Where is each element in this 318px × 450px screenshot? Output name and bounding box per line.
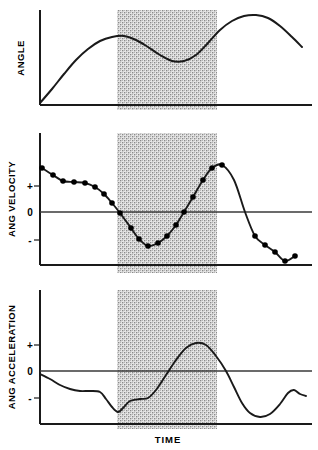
velocity-axis-label: ANG VELOCITY: [6, 161, 17, 237]
velocity-data-point: [50, 172, 56, 178]
velocity-data-point: [155, 240, 161, 246]
acceleration-axis-label: ANG ACCELERATION: [6, 305, 17, 410]
velocity-data-point: [128, 225, 134, 231]
velocity-data-point: [252, 233, 258, 239]
velocity-data-point: [262, 242, 268, 248]
velocity-data-point: [190, 194, 196, 200]
velocity-data-point: [292, 253, 298, 259]
velocity-data-point: [101, 191, 107, 197]
acceleration-tick-zero: 0: [27, 366, 33, 377]
velocity-data-point: [136, 236, 142, 242]
kinematics-figure-svg: ANGLE + 0 - ANG VELOCITY + 0 -: [0, 0, 318, 450]
acceleration-tick-minus: -: [28, 393, 31, 404]
velocity-data-point: [200, 177, 206, 183]
velocity-data-point: [181, 209, 187, 215]
velocity-data-point: [173, 222, 179, 228]
velocity-data-point: [60, 178, 66, 184]
velocity-data-point: [39, 165, 45, 171]
velocity-data-point: [117, 210, 123, 216]
velocity-data-point: [82, 180, 88, 186]
velocity-data-point: [145, 243, 151, 249]
velocity-data-point: [209, 165, 215, 171]
acceleration-tick-plus: +: [27, 340, 33, 351]
band-acceleration: [117, 290, 217, 429]
angle-axis-label: ANGLE: [15, 40, 26, 75]
velocity-data-point: [92, 184, 98, 190]
band-velocity: [117, 133, 217, 273]
velocity-tick-zero: 0: [27, 207, 33, 218]
time-axis-label: TIME: [155, 434, 181, 445]
velocity-data-point: [71, 179, 77, 185]
figure-root: ANGLE + 0 - ANG VELOCITY + 0 -: [0, 0, 318, 450]
velocity-data-point: [109, 200, 115, 206]
velocity-data-point: [164, 233, 170, 239]
velocity-data-point: [219, 162, 225, 168]
shaded-interval-band: [117, 10, 217, 429]
velocity-data-point: [282, 258, 288, 264]
velocity-tick-minus: -: [28, 235, 31, 246]
velocity-tick-plus: +: [27, 181, 33, 192]
velocity-data-point: [272, 249, 278, 255]
